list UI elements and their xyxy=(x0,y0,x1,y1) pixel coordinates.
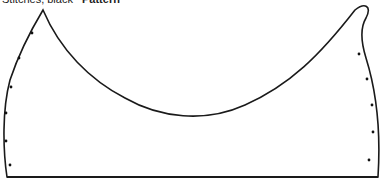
pattern-outline xyxy=(4,6,379,177)
left-stitch-dots xyxy=(5,32,34,167)
pattern-piece-diagram xyxy=(0,0,382,180)
right-stitch-dots xyxy=(358,53,375,162)
